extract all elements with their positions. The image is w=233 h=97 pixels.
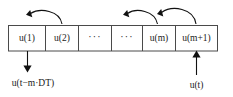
register-cell-1-label: u(1)	[19, 33, 35, 44]
shift-arrow-2-head	[123, 10, 129, 17]
input-port: u(t)	[190, 51, 204, 92]
register-cell-5-label: u(m)	[150, 33, 168, 44]
register-cell-2-label: u(2)	[54, 33, 70, 44]
shift-arrow-3-head	[157, 9, 163, 16]
shift-register-diagram: u(1) u(2) ··· ··· u(m) u(m+1) u(t−m·DT)	[0, 0, 233, 97]
register-row: u(1) u(2) ··· ··· u(m) u(m+1)	[9, 26, 218, 52]
output-port-arrowhead	[23, 66, 31, 73]
output-port: u(t−m·DT)	[12, 51, 54, 89]
input-port-label: u(t)	[190, 80, 204, 91]
shift-arrow-2	[123, 10, 158, 24]
register-cell-3-label: ···	[88, 31, 102, 42]
shift-arrow-3	[157, 9, 196, 24]
output-port-label: u(t−m·DT)	[12, 78, 54, 89]
register-cell-4-label: ···	[120, 31, 134, 42]
shift-arrow-1	[26, 10, 62, 24]
diagram-canvas: u(1) u(2) ··· ··· u(m) u(m+1) u(t−m·DT)	[0, 0, 233, 97]
register-cell-6-label: u(m+1)	[182, 33, 211, 44]
input-port-arrowhead	[192, 51, 200, 58]
